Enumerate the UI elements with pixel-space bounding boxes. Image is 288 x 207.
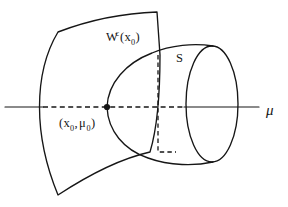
generator-dashed-line — [158, 55, 176, 152]
surface-s-rim-ellipse — [186, 46, 238, 162]
center-manifold-surface — [40, 12, 161, 195]
point-label-mu-subscript: 0 — [87, 124, 91, 133]
point-label: ( x 0 , μ 0 ) — [59, 116, 95, 133]
point-label-comma: , — [75, 116, 78, 130]
surface-s-label: S — [176, 51, 183, 65]
point-label-close-paren: ) — [91, 116, 95, 130]
center-manifold-label: W c ( x 0 ) — [106, 29, 140, 47]
point-label-mu-base: μ — [79, 116, 86, 130]
surface-s-lower-generator — [107, 107, 213, 165]
wc-label-superscript: c — [116, 29, 120, 38]
diagram-canvas: W c ( x 0 ) S ( x 0 , μ 0 ) μ — [0, 0, 288, 207]
center-manifold-figure: W c ( x 0 ) S ( x 0 , μ 0 ) μ — [0, 0, 288, 207]
wc-label-arg-subscript: 0 — [131, 38, 135, 47]
point-label-x-subscript: 0 — [70, 124, 74, 133]
wc-label-close-paren: ) — [136, 30, 140, 44]
point-x0-mu0 — [104, 104, 110, 110]
mu-axis-label: μ — [265, 102, 274, 118]
